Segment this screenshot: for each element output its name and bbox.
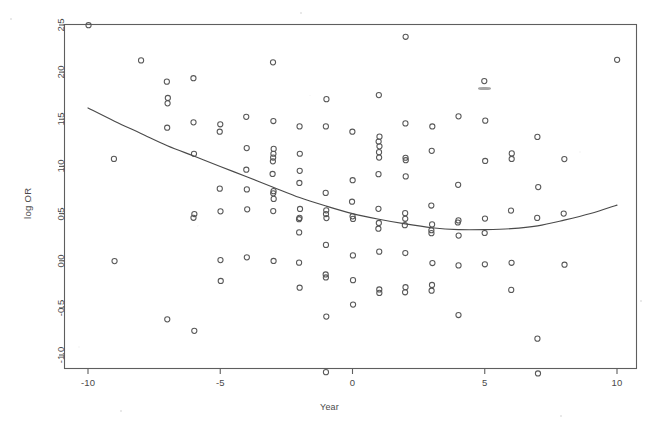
data-point — [402, 290, 407, 295]
data-point — [323, 242, 328, 247]
data-point — [244, 114, 249, 119]
data-point — [244, 167, 249, 172]
data-point — [297, 180, 302, 185]
fitted-curve — [88, 108, 617, 230]
data-point — [350, 278, 355, 283]
data-point — [535, 134, 540, 139]
data-point — [218, 122, 223, 127]
data-point — [483, 118, 488, 123]
x-tick-label: -10 — [58, 377, 118, 388]
data-point — [324, 314, 329, 319]
data-point — [403, 34, 408, 39]
data-point — [429, 203, 434, 208]
data-point — [244, 187, 249, 192]
data-point — [509, 260, 514, 265]
data-point — [376, 92, 381, 97]
data-point — [377, 290, 382, 295]
data-point — [165, 95, 170, 100]
data-point — [482, 78, 487, 83]
data-point — [270, 159, 275, 164]
data-point — [297, 151, 302, 156]
data-point — [561, 211, 566, 216]
data-point — [403, 211, 408, 216]
data-point — [271, 118, 276, 123]
x-axis-title: Year — [0, 402, 659, 412]
data-point — [562, 156, 567, 161]
data-point — [509, 287, 514, 292]
data-point — [535, 215, 540, 220]
data-point — [271, 209, 276, 214]
data-point — [270, 171, 275, 176]
y-tick-label: 2.5 — [55, 10, 66, 40]
data-point — [218, 278, 223, 283]
data-point — [377, 155, 382, 160]
data-point — [271, 258, 276, 263]
data-point — [429, 288, 434, 293]
data-point — [165, 317, 170, 322]
y-tick-label: 0.0 — [55, 246, 66, 276]
data-point — [403, 174, 408, 179]
data-point — [482, 216, 487, 221]
data-point — [165, 125, 170, 130]
data-point — [376, 172, 381, 177]
data-point — [324, 97, 329, 102]
data-point — [536, 184, 541, 189]
data-point — [482, 230, 487, 235]
data-point — [297, 230, 302, 235]
paper-speck — [120, 410, 122, 412]
data-point — [509, 151, 514, 156]
data-point — [376, 206, 381, 211]
data-point — [138, 58, 143, 63]
data-point — [86, 23, 91, 28]
data-point — [191, 120, 196, 125]
data-point — [244, 145, 249, 150]
data-point — [191, 76, 196, 81]
data-point — [271, 196, 276, 201]
data-point — [112, 259, 117, 264]
data-point — [192, 328, 197, 333]
data-point — [482, 262, 487, 267]
data-point — [350, 253, 355, 258]
data-point — [535, 336, 540, 341]
data-point — [349, 199, 354, 204]
data-point — [297, 285, 302, 290]
data-point — [483, 158, 488, 163]
y-tick-label: 2.0 — [55, 57, 66, 87]
plot-frame — [65, 25, 637, 369]
data-point — [429, 282, 434, 287]
data-point — [245, 207, 250, 212]
y-tick-label: 0.5 — [55, 199, 66, 229]
data-point — [430, 260, 435, 265]
data-point — [535, 371, 540, 376]
paper-speck — [640, 300, 642, 302]
y-axis-title: log OR — [22, 187, 33, 218]
data-point — [509, 156, 514, 161]
data-point — [323, 190, 328, 195]
paper-speck — [560, 415, 562, 417]
y-tick-label: -0.5 — [55, 293, 66, 323]
data-point — [377, 249, 382, 254]
data-point — [456, 182, 461, 187]
x-tick-label: -5 — [190, 377, 250, 388]
data-point — [403, 285, 408, 290]
paper-speck — [30, 200, 32, 202]
data-point — [456, 263, 461, 268]
data-point — [429, 148, 434, 153]
data-point — [218, 258, 223, 263]
data-point — [270, 60, 275, 65]
data-point — [296, 260, 301, 265]
data-point — [403, 216, 408, 221]
data-point — [350, 129, 355, 134]
paper-speck — [300, 12, 302, 14]
data-point — [217, 186, 222, 191]
data-point — [217, 129, 222, 134]
scan-smudge-artifact — [478, 87, 491, 90]
y-tick-label: -1.0 — [55, 340, 66, 370]
x-tick-label: 5 — [455, 377, 515, 388]
data-point — [323, 124, 328, 129]
data-point — [377, 134, 382, 139]
data-point — [244, 255, 249, 260]
data-point — [350, 302, 355, 307]
data-point — [403, 250, 408, 255]
y-tick-label: 1.5 — [55, 104, 66, 134]
